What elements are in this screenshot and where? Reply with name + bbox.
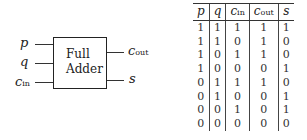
table-row: 1 0 0 0 1 — [193, 62, 294, 76]
cell: 0 — [209, 48, 226, 62]
header-p: p — [193, 4, 209, 21]
cell: 0 — [209, 62, 226, 76]
cell: 0 — [209, 103, 226, 117]
table-row: 1 1 0 1 0 — [193, 35, 294, 49]
cell: 1 — [278, 90, 294, 104]
cell: 1 — [249, 76, 278, 90]
cell: 1 — [209, 21, 226, 35]
table-row: 1 1 1 1 1 — [193, 21, 294, 35]
cell: 0 — [278, 76, 294, 90]
cell: 1 — [249, 48, 278, 62]
output-label-cout: cout — [128, 44, 148, 59]
cell: 0 — [226, 117, 249, 131]
header-q: q — [209, 4, 226, 21]
cell: 0 — [278, 35, 294, 49]
table-row: 0 0 1 0 1 — [193, 103, 294, 117]
cell: 1 — [209, 35, 226, 49]
output-label-s: s — [129, 72, 136, 85]
cell: 0 — [226, 62, 249, 76]
output-wire-s — [107, 80, 124, 81]
input-label-p: p — [20, 36, 28, 49]
cell: 1 — [226, 21, 249, 35]
truth-table: p q cin cout s 1 1 1 1 1 1 1 0 1 0 1 0 1… — [193, 3, 294, 131]
cell: 1 — [278, 21, 294, 35]
cell: 0 — [193, 117, 209, 131]
header-s: s — [278, 4, 294, 21]
cell: 1 — [193, 35, 209, 49]
cell: 0 — [278, 48, 294, 62]
cell: 1 — [193, 21, 209, 35]
cell: 1 — [209, 90, 226, 104]
cell: 1 — [193, 48, 209, 62]
input-label-cin: cin — [15, 75, 30, 90]
cell: 1 — [278, 62, 294, 76]
cell: 1 — [226, 76, 249, 90]
cell: 0 — [226, 90, 249, 104]
cell: 0 — [249, 62, 278, 76]
header-cin: cin — [226, 4, 249, 21]
cell: 0 — [249, 103, 278, 117]
cell: 0 — [278, 117, 294, 131]
cell: 1 — [226, 103, 249, 117]
table-row: 1 0 1 1 0 — [193, 48, 294, 62]
cell: 0 — [193, 103, 209, 117]
cell: 0 — [193, 76, 209, 90]
table-row: 0 0 0 0 0 — [193, 117, 294, 131]
cell: 1 — [278, 103, 294, 117]
cell: 0 — [226, 35, 249, 49]
cell: 0 — [209, 117, 226, 131]
table-row: 0 1 0 0 1 — [193, 90, 294, 104]
block-label: Full Adder — [66, 47, 103, 77]
cell: 0 — [249, 117, 278, 131]
cell: 1 — [249, 35, 278, 49]
cell: 1 — [209, 76, 226, 90]
cell: 1 — [249, 21, 278, 35]
cell: 1 — [193, 62, 209, 76]
table-header-row: p q cin cout s — [193, 4, 294, 21]
block-label-line2: Adder — [66, 62, 103, 77]
input-wire-p — [35, 44, 53, 45]
input-wire-q — [35, 63, 53, 64]
cell: 0 — [193, 90, 209, 104]
table-row: 0 1 1 1 0 — [193, 76, 294, 90]
input-wire-cin — [35, 82, 53, 83]
input-label-q: q — [20, 55, 28, 68]
block-label-line1: Full — [66, 47, 103, 62]
output-wire-cout — [107, 52, 124, 53]
header-cout: cout — [249, 4, 278, 21]
cell: 1 — [226, 48, 249, 62]
cell: 0 — [249, 90, 278, 104]
